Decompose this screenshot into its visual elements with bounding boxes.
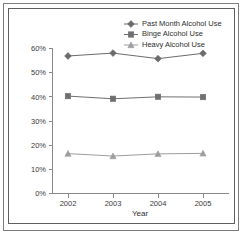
x-tick-label: 2002 [60, 199, 77, 208]
y-tick-label: 20% [31, 141, 46, 150]
series-line [68, 153, 203, 156]
y-tick-label: 40% [31, 93, 46, 102]
x-axis-ticks: 2002200320042005 [60, 194, 212, 209]
data-point-marker [155, 55, 162, 62]
series-3 [65, 150, 206, 158]
x-tick-label: 2003 [105, 199, 122, 208]
data-series-group [65, 50, 207, 159]
data-point-marker [65, 93, 70, 98]
y-tick-label: 50% [31, 68, 46, 77]
legend-item-3: Heavy Alcohol Use [124, 40, 205, 49]
legend-marker [128, 21, 135, 28]
data-point-marker [200, 94, 205, 99]
chart-figure: 0%10%20%30%40%50%60% 2002200320042005 Pa… [0, 0, 243, 235]
data-point-marker [200, 50, 207, 57]
data-point-marker [110, 50, 117, 57]
series-line [68, 96, 203, 99]
series-1 [65, 50, 207, 62]
x-tick-label: 2005 [195, 199, 212, 208]
data-point-marker [155, 94, 160, 99]
x-tick-label: 2004 [150, 199, 167, 208]
y-tick-label: 0% [35, 189, 46, 198]
y-tick-label: 10% [31, 165, 46, 174]
legend-item-2: Binge Alcohol Use [124, 29, 203, 38]
line-chart-plot: 0%10%20%30%40%50%60% 2002200320042005 Pa… [0, 0, 243, 235]
legend-label: Past Month Alcohol Use [142, 19, 222, 28]
chart-legend: Past Month Alcohol UseBinge Alcohol UseH… [124, 19, 222, 49]
series-line [68, 53, 203, 59]
legend-label: Binge Alcohol Use [142, 29, 203, 38]
data-point-marker [65, 53, 72, 60]
axes-group [53, 49, 229, 194]
legend-item-1: Past Month Alcohol Use [124, 19, 222, 28]
y-tick-label: 30% [31, 117, 46, 126]
legend-label: Heavy Alcohol Use [142, 40, 205, 49]
y-axis-ticks: 0%10%20%30%40%50%60% [31, 44, 53, 198]
x-axis-title: Year [132, 209, 149, 218]
data-point-marker [110, 96, 115, 101]
y-tick-label: 60% [31, 44, 46, 53]
series-2 [65, 93, 205, 101]
legend-marker [128, 32, 133, 37]
